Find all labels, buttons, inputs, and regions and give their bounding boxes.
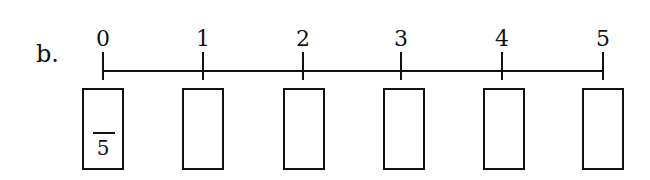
tick-label-5: 5 (588, 26, 618, 51)
tick-mark-0 (102, 52, 104, 80)
tick-label-3: 3 (386, 26, 416, 51)
problem-label: b. (36, 40, 59, 68)
answer-box-5[interactable] (582, 88, 624, 170)
tick-label-0: 0 (88, 26, 118, 51)
tick-mark-4 (501, 52, 503, 80)
answer-box-2[interactable] (283, 88, 325, 170)
tick-label-1: 1 (188, 26, 218, 51)
answer-box-3[interactable] (383, 88, 425, 170)
tick-mark-3 (400, 52, 402, 80)
number-line-axis (103, 70, 603, 72)
answer-box-4[interactable] (483, 88, 525, 170)
answer-box-0[interactable]: 5 (82, 88, 124, 170)
denominator: 5 (84, 136, 122, 160)
tick-label-2: 2 (288, 26, 318, 51)
answer-box-1[interactable] (182, 88, 224, 170)
tick-mark-5 (602, 52, 604, 80)
tick-mark-2 (302, 52, 304, 80)
tick-mark-1 (202, 52, 204, 80)
tick-label-4: 4 (487, 26, 517, 51)
fraction-bar (93, 132, 115, 134)
